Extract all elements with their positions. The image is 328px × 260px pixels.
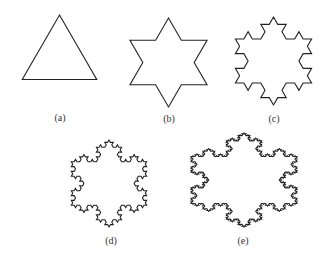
panel-c: (c) <box>235 17 311 125</box>
panel-d: (d) <box>71 140 146 247</box>
koch-curve-d <box>71 140 146 227</box>
label-a: (a) <box>54 112 65 124</box>
koch-snowflake-figure: (a) (b) (c) (d) (e) <box>0 0 328 260</box>
label-c: (c) <box>268 113 279 125</box>
koch-curve-b <box>130 18 207 107</box>
panel-e: (e) <box>191 133 297 247</box>
koch-curve-c <box>235 17 311 105</box>
koch-curve-e <box>191 133 297 227</box>
panel-b: (b) <box>130 18 207 125</box>
koch-curve-a <box>22 15 96 80</box>
label-e: (e) <box>237 235 248 247</box>
label-d: (d) <box>105 235 117 247</box>
panel-a: (a) <box>22 15 96 124</box>
label-b: (b) <box>163 113 175 125</box>
